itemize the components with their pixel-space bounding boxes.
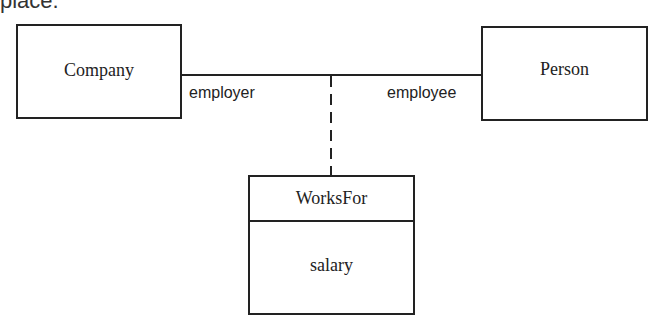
role-employer: employer bbox=[189, 84, 255, 102]
class-name: Company bbox=[18, 60, 180, 81]
compartment-divider bbox=[250, 220, 413, 222]
association-class-worksfor: WorksFor salary bbox=[248, 175, 415, 315]
attribute-salary: salary bbox=[250, 255, 413, 276]
class-person: Person bbox=[481, 26, 648, 121]
class-name: Person bbox=[483, 59, 646, 80]
class-name: WorksFor bbox=[250, 188, 413, 209]
role-employee: employee bbox=[387, 84, 456, 102]
class-company: Company bbox=[16, 24, 182, 119]
